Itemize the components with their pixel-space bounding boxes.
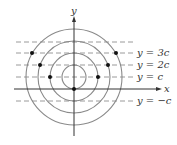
point — [30, 51, 34, 55]
label-ynegc: y = −c — [136, 95, 172, 106]
point — [38, 63, 42, 67]
x-axis-arrow-icon — [156, 87, 162, 91]
x-axis-label: x — [164, 83, 170, 94]
label-yc: y = c — [136, 71, 163, 82]
point — [114, 51, 118, 55]
point — [96, 75, 100, 79]
y-axis-arrow-icon — [72, 16, 76, 22]
diagram: y x y = 3c y = 2c y = c y = −c — [0, 0, 177, 145]
y-axis-label: y — [70, 5, 77, 16]
label-y2c: y = 2c — [136, 59, 170, 70]
point — [48, 75, 52, 79]
point-origin — [72, 87, 76, 91]
label-y3c: y = 3c — [136, 47, 170, 58]
point — [106, 63, 110, 67]
